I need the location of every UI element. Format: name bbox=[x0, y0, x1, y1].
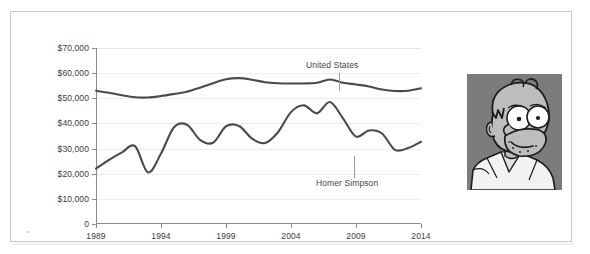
page-canvas: $70,000 $60,000 $50,000 $40,000 $30,000 … bbox=[0, 0, 590, 254]
y-tick-label-40000: $40,000 bbox=[58, 118, 89, 128]
y-tick-label-70000: $70,000 bbox=[58, 43, 89, 53]
x-tick-2009 bbox=[356, 224, 357, 228]
x-tick-label-1999: 1999 bbox=[216, 231, 235, 241]
x-tick-1989 bbox=[96, 224, 97, 228]
annotation-leader-united-states bbox=[339, 73, 340, 91]
x-tick-label-2009: 2009 bbox=[346, 231, 365, 241]
y-tick-label-20000: $20,000 bbox=[58, 169, 89, 179]
x-tick-1994 bbox=[161, 224, 162, 228]
homer-simpson-illustration bbox=[467, 74, 562, 190]
figure-frame: $70,000 $60,000 $50,000 $40,000 $30,000 … bbox=[10, 11, 572, 242]
x-tick-2004 bbox=[291, 224, 292, 228]
x-tick-1999 bbox=[226, 224, 227, 228]
y-tick-label-30000: $30,000 bbox=[58, 144, 89, 154]
x-tick-label-2004: 2004 bbox=[281, 231, 300, 241]
x-tick-label-2014: 2014 bbox=[411, 231, 430, 241]
scan-speck bbox=[26, 231, 29, 233]
y-tick-label-10000: $10,000 bbox=[58, 194, 89, 204]
series-canvas bbox=[96, 48, 421, 224]
x-tick-2014 bbox=[421, 224, 422, 228]
line-chart: $70,000 $60,000 $50,000 $40,000 $30,000 … bbox=[21, 23, 461, 254]
y-tick-label-50000: $50,000 bbox=[58, 93, 89, 103]
annotation-united-states: United States bbox=[306, 60, 358, 70]
y-tick-label-0: 0 bbox=[84, 219, 89, 229]
series-line-united-states bbox=[96, 78, 421, 97]
series-line-homer-simpson bbox=[96, 102, 421, 173]
homer-simpson-photo bbox=[467, 74, 562, 190]
annotation-homer-simpson: Homer Simpson bbox=[316, 178, 378, 188]
plot-area: $70,000 $60,000 $50,000 $40,000 $30,000 … bbox=[96, 48, 421, 224]
x-tick-label-1989: 1989 bbox=[86, 231, 105, 241]
annotation-leader-homer-simpson bbox=[354, 156, 355, 178]
x-tick-label-1994: 1994 bbox=[151, 231, 170, 241]
y-tick-label-60000: $60,000 bbox=[58, 68, 89, 78]
